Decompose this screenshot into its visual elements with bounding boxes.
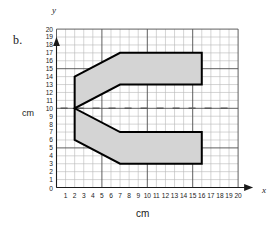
svg-text:8: 8 — [49, 121, 53, 128]
svg-text:17: 17 — [207, 192, 215, 199]
svg-text:5: 5 — [49, 144, 53, 151]
svg-text:15: 15 — [46, 65, 54, 72]
figure-root: b. cm cm y x 123456789101112131415161718… — [0, 0, 273, 229]
svg-text:16: 16 — [46, 57, 54, 64]
svg-text:0: 0 — [49, 185, 53, 192]
svg-text:11: 11 — [46, 97, 53, 104]
svg-text:3: 3 — [82, 192, 86, 199]
svg-text:16: 16 — [198, 192, 206, 199]
svg-text:18: 18 — [216, 192, 224, 199]
svg-text:2: 2 — [73, 192, 77, 199]
svg-text:1: 1 — [64, 192, 68, 199]
svg-text:11: 11 — [153, 192, 160, 199]
svg-text:7: 7 — [118, 192, 122, 199]
svg-text:10: 10 — [46, 105, 54, 112]
svg-text:12: 12 — [46, 89, 54, 96]
coordinate-grid-plot: 1234567891011121314151617181920123456789… — [0, 0, 273, 229]
svg-text:7: 7 — [49, 128, 53, 135]
svg-text:19: 19 — [46, 33, 54, 40]
svg-text:14: 14 — [180, 192, 188, 199]
svg-text:10: 10 — [144, 192, 152, 199]
svg-text:20: 20 — [46, 26, 54, 33]
svg-text:18: 18 — [46, 41, 54, 48]
svg-text:12: 12 — [162, 192, 170, 199]
svg-text:5: 5 — [100, 192, 104, 199]
svg-text:4: 4 — [49, 152, 53, 159]
svg-text:6: 6 — [49, 136, 53, 143]
svg-text:4: 4 — [91, 192, 95, 199]
svg-text:8: 8 — [127, 192, 131, 199]
svg-text:9: 9 — [136, 192, 140, 199]
svg-text:9: 9 — [49, 113, 53, 120]
svg-text:2: 2 — [49, 168, 53, 175]
svg-text:20: 20 — [234, 192, 242, 199]
svg-text:3: 3 — [49, 160, 53, 167]
svg-text:17: 17 — [46, 49, 54, 56]
svg-text:15: 15 — [189, 192, 197, 199]
svg-text:14: 14 — [46, 73, 54, 80]
svg-text:13: 13 — [46, 81, 54, 88]
svg-text:13: 13 — [171, 192, 179, 199]
svg-text:19: 19 — [225, 192, 233, 199]
svg-text:1: 1 — [49, 176, 53, 183]
svg-text:6: 6 — [109, 192, 113, 199]
